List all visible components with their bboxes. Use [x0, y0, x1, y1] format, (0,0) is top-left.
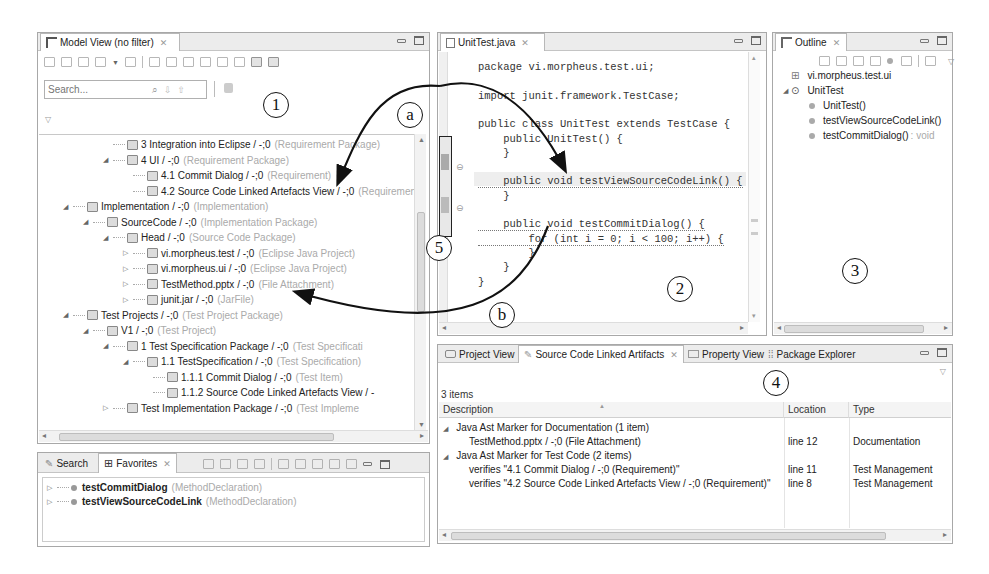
collapse-icon[interactable]: ◢	[103, 342, 111, 350]
hide-fields-icon[interactable]	[853, 56, 864, 66]
collapse-all-icon[interactable]	[183, 57, 194, 67]
tree-horizontal-scrollbar[interactable]: ◂ ▸	[39, 430, 428, 442]
tab-search[interactable]: ✎ Search	[40, 453, 93, 473]
expand-icon[interactable]: ▷	[123, 249, 131, 257]
sync-icon[interactable]	[234, 57, 245, 67]
tab-property-view[interactable]: Property View	[683, 345, 769, 363]
tab-model-view[interactable]: Model View (no filter) ✕	[40, 33, 180, 51]
editor-horizontal-scrollbar[interactable]: ◂ ▸	[439, 322, 748, 334]
tab-source-code-linked-artifacts[interactable]: ✎ Source Code Linked Artifacts ✕	[518, 345, 684, 363]
maximize-button[interactable]	[751, 36, 761, 45]
zoom-icon[interactable]	[312, 459, 323, 469]
search-box[interactable]: ⌕ ⇩ ⇧	[44, 80, 207, 99]
list-item[interactable]: ▷ testCommitDialog (MethodDeclaration)	[47, 481, 262, 494]
tree-item[interactable]: 3 Integration into Eclipse / -;0(Require…	[103, 138, 380, 151]
collapse-icon[interactable]: ◢	[123, 358, 131, 366]
code-line[interactable]: }	[478, 189, 510, 203]
tab-project-view[interactable]: Project View	[440, 345, 519, 363]
minimize-button[interactable]	[363, 462, 372, 466]
minimize-button[interactable]	[397, 39, 406, 43]
expand-icon[interactable]: ▷	[47, 484, 55, 492]
collapse-icon[interactable]: ◢	[83, 218, 91, 226]
focus-icon[interactable]	[925, 56, 936, 66]
hide-static-icon[interactable]	[870, 56, 881, 66]
scroll-thumb[interactable]	[417, 212, 425, 312]
collapse-icon[interactable]: ◢	[83, 327, 91, 335]
outline-item[interactable]: testCommitDialog(): void	[801, 129, 934, 142]
maximize-button[interactable]	[414, 36, 424, 45]
outline-item[interactable]: ◢⊙UnitTest	[783, 84, 846, 97]
group-row[interactable]: ◢ Java Ast Marker for Test Code (2 items…	[443, 449, 632, 463]
minimize-button[interactable]	[920, 39, 929, 43]
tree-item[interactable]: 1.1.1 Commit Dialog / -;0(Test Item)	[143, 371, 343, 384]
tab-unittest-java[interactable]: UnitTest.java ✕	[440, 33, 545, 51]
collapse-icon[interactable]: ◢	[103, 156, 111, 164]
export-icon[interactable]	[217, 57, 228, 67]
filter-icon[interactable]	[125, 57, 136, 67]
tree-item[interactable]: ▷TestMethod.pptx / -;0(File Attachment)	[123, 278, 334, 291]
code-line[interactable]: }	[478, 260, 510, 274]
folder-icon[interactable]	[254, 459, 265, 469]
tree-filter-toggle-icon[interactable]	[251, 57, 262, 67]
remove-all-icon[interactable]	[237, 459, 248, 469]
code-line[interactable]: package vi.morpheus.test.ui;	[478, 60, 654, 74]
outline-item[interactable]: ⊞vi.morpheus.test.ui	[783, 69, 893, 82]
editor-vertical-scrollbar[interactable]: ▴ ▾	[748, 52, 760, 322]
column-header-type[interactable]: Type	[849, 402, 951, 418]
code-area[interactable]: package vi.morpheus.test.ui;import junit…	[478, 60, 748, 320]
outline-item[interactable]: testViewSourceCodeLink()	[801, 114, 943, 127]
tree-item[interactable]: ▷vi.morpheus.test / -;0(Eclipse Java Pro…	[123, 247, 355, 260]
expand-icon[interactable]: ▷	[123, 296, 131, 304]
close-icon[interactable]: ✕	[833, 38, 841, 48]
back-icon[interactable]	[78, 57, 89, 67]
table-horizontal-scrollbar[interactable]: ◂ ▸	[439, 529, 951, 541]
unlink-icon[interactable]	[61, 57, 72, 67]
tree-item[interactable]: ◢4 UI / -;0(Requirement Package)	[103, 154, 289, 167]
link-marker-icon[interactable]	[441, 154, 449, 170]
settings-icon[interactable]	[224, 83, 233, 93]
remove-icon[interactable]	[220, 459, 231, 469]
collapse-icon[interactable]: ◢	[63, 203, 71, 211]
expand-icon[interactable]: ▷	[123, 280, 131, 288]
view-menu-icon[interactable]: ▽	[948, 57, 954, 66]
table-row[interactable]: verifies "4.1 Commit Dialog / -;0 (Requi…	[469, 463, 680, 477]
tree-item[interactable]: ◢Test Projects / -;0(Test Project Packag…	[63, 309, 283, 322]
close-icon[interactable]: ✕	[160, 38, 168, 48]
search-icon[interactable]: ⌕	[152, 84, 158, 96]
group-row[interactable]: ◢ Java Ast Marker for Documentation (1 i…	[443, 421, 649, 435]
code-line[interactable]: public class UnitTest extends TestCase {	[478, 117, 730, 131]
minimize-button[interactable]	[920, 351, 929, 355]
code-line[interactable]: }	[478, 275, 484, 289]
scroll-thumb[interactable]	[784, 325, 924, 333]
hide-non-public-icon[interactable]	[887, 58, 893, 64]
tree-item[interactable]: ◢Implementation / -;0(Implementation)	[63, 200, 268, 213]
zoom-icon[interactable]	[200, 57, 211, 67]
code-line[interactable]: public UnitTest() {	[478, 132, 623, 146]
expand-icon[interactable]: ▷	[123, 265, 131, 273]
expand-icon[interactable]: ▷	[103, 404, 111, 412]
collapse-icon[interactable]: ◢	[443, 425, 448, 432]
outline-horizontal-scrollbar[interactable]: ◂ ▸	[774, 322, 952, 334]
link-icon[interactable]	[44, 57, 55, 67]
tree-icon[interactable]	[149, 57, 160, 67]
navigate-icon[interactable]	[95, 57, 106, 67]
next-arrow-icon[interactable]: ⇩	[164, 85, 172, 95]
maximize-button[interactable]	[937, 348, 947, 357]
expand-all-icon[interactable]	[166, 57, 177, 67]
tree-vertical-scrollbar[interactable]: ▲ ▼	[414, 134, 426, 430]
code-line[interactable]: public void testCommitDialog() {	[478, 217, 705, 231]
prev-arrow-icon[interactable]: ⇧	[178, 85, 186, 95]
hide-local-types-icon[interactable]	[901, 56, 912, 66]
collapse-icon[interactable]: ◢	[103, 234, 111, 242]
expand-all-icon[interactable]	[278, 459, 289, 469]
tree-item[interactable]: ◢SourceCode / -;0(Implementation Package…	[83, 216, 317, 229]
expand-icon[interactable]: ▷	[47, 498, 55, 506]
outline-item[interactable]: UnitTest()	[801, 99, 868, 112]
tree-item[interactable]: 4.2 Source Code Linked Artefacts View / …	[123, 185, 415, 198]
dropdown-icon[interactable]: ▼	[112, 59, 119, 66]
collapse-all-icon[interactable]	[295, 459, 306, 469]
tree-item[interactable]: 4.1 Commit Dialog / -;0(Requirement)	[123, 169, 331, 182]
tree-item[interactable]: ◢1 Test Specification Package / -;0(Test…	[103, 340, 363, 353]
maximize-button[interactable]	[380, 460, 390, 469]
tree-item[interactable]: ◢1.1 TestSpecification / -;0(Test Specif…	[123, 355, 361, 368]
